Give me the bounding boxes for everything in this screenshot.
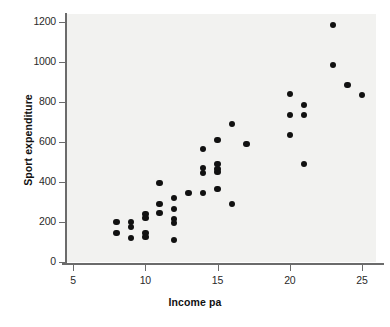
data-point [344, 82, 351, 89]
x-tick-mark [290, 264, 291, 271]
y-tick-mark [59, 102, 66, 103]
data-point [243, 141, 250, 148]
data-point [113, 219, 120, 226]
data-point [214, 169, 221, 176]
y-tick-mark [59, 182, 66, 183]
x-tick-mark [73, 264, 74, 271]
x-axis-label: Income pa [0, 296, 390, 308]
y-tick-mark [59, 22, 66, 23]
data-point [156, 180, 163, 187]
data-point [185, 190, 192, 197]
data-point [142, 234, 149, 241]
x-tick-label: 20 [270, 274, 310, 286]
y-tick-mark [59, 142, 66, 143]
data-point [156, 201, 163, 208]
y-tick-mark [59, 262, 66, 263]
data-point [214, 137, 221, 144]
x-tick-mark [362, 264, 363, 271]
x-tick-label: 10 [125, 274, 165, 286]
plot-area [66, 14, 376, 262]
y-tick-mark [59, 62, 66, 63]
y-tick-mark [59, 222, 66, 223]
data-point [113, 230, 120, 237]
x-tick-label: 5 [53, 274, 93, 286]
x-tick-mark [218, 264, 219, 271]
y-axis-label: Sport expenditure [22, 50, 34, 230]
x-tick-label: 15 [198, 274, 238, 286]
x-tick-label: 25 [342, 274, 382, 286]
y-axis-line [65, 13, 67, 265]
data-point [214, 186, 221, 193]
data-point [156, 210, 163, 217]
data-point [142, 215, 149, 222]
scatter-chart-figure: 020040060080010001200 510152025 Income p… [0, 0, 390, 327]
y-tick-label: 1200 [16, 15, 56, 27]
y-tick-label: 0 [16, 255, 56, 267]
x-axis-line [62, 263, 384, 265]
x-tick-mark [145, 264, 146, 271]
